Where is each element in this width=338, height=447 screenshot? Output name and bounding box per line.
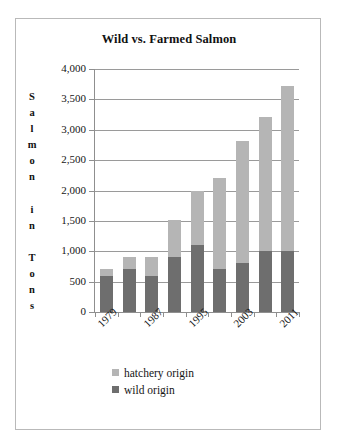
bar-segment-hatchery-origin[interactable] — [191, 191, 204, 246]
y-axis-title-letter: S — [24, 89, 40, 105]
bar-stack[interactable] — [281, 69, 294, 312]
y-axis-title-letter: a — [24, 105, 40, 121]
y-axis-title-letter: T — [24, 250, 40, 266]
y-axis-tick-label: 2,000 — [40, 184, 86, 196]
y-axis-tick-label: 3,000 — [40, 123, 86, 135]
y-axis-title-letter: m — [24, 137, 40, 153]
bar-segment-hatchery-origin[interactable] — [123, 257, 136, 269]
bar-segment-hatchery-origin[interactable] — [236, 141, 249, 263]
y-axis-title-letter: i — [24, 202, 40, 218]
bar-segment-hatchery-origin[interactable] — [259, 117, 272, 251]
legend-swatch-icon — [112, 369, 119, 376]
y-axis-tick-label: 500 — [40, 275, 86, 287]
y-axis-tick-label: 1,000 — [40, 244, 86, 256]
y-axis-tick-label: 4,000 — [40, 62, 86, 74]
y-axis-tick-label: 0 — [40, 305, 86, 317]
bar-segment-wild-origin[interactable] — [281, 251, 294, 312]
y-axis-title-letter: n — [24, 169, 40, 185]
y-axis-title-spacer — [24, 234, 40, 250]
bar-stack[interactable] — [168, 69, 181, 312]
legend-swatch-icon — [112, 386, 119, 393]
y-axis-title-letter: o — [24, 266, 40, 282]
plot-area — [95, 69, 299, 312]
bar-segment-hatchery-origin[interactable] — [145, 257, 158, 276]
bar-stack[interactable] — [259, 69, 272, 312]
bar-stack[interactable] — [236, 69, 249, 312]
bar-segment-hatchery-origin[interactable] — [168, 220, 181, 257]
category-axis-tick — [95, 312, 96, 317]
y-axis-title-letter: n — [24, 282, 40, 298]
bar-stack[interactable] — [100, 69, 113, 312]
y-axis-title-letter: n — [24, 218, 40, 234]
y-axis-title-letter: o — [24, 153, 40, 169]
y-axis-title-letter: l — [24, 121, 40, 137]
chart-legend: hatchery originwild origin — [112, 364, 272, 398]
y-axis-title: SalmoninTons — [24, 89, 40, 314]
bar-segment-wild-origin[interactable] — [123, 269, 136, 312]
bar-segment-wild-origin[interactable] — [259, 251, 272, 312]
y-axis-title-letter: s — [24, 298, 40, 314]
y-axis-tick-label: 3,500 — [40, 92, 86, 104]
bar-segment-hatchery-origin[interactable] — [213, 178, 226, 270]
bar-segment-hatchery-origin[interactable] — [281, 86, 294, 251]
bar-segment-wild-origin[interactable] — [168, 257, 181, 312]
bar-segment-wild-origin[interactable] — [236, 263, 249, 312]
y-axis-title-spacer — [24, 186, 40, 202]
bar-stack[interactable] — [191, 69, 204, 312]
y-axis-tick-label: 2,500 — [40, 153, 86, 165]
chart-title: Wild vs. Farmed Salmon — [16, 32, 322, 47]
category-axis-tick — [276, 312, 277, 317]
legend-item-label: wild origin — [124, 384, 175, 396]
legend-item[interactable]: hatchery origin — [112, 364, 272, 381]
bar-segment-wild-origin[interactable] — [213, 269, 226, 312]
y-axis-tick-label: 1,500 — [40, 214, 86, 226]
bar-stack[interactable] — [145, 69, 158, 312]
bar-segment-wild-origin[interactable] — [191, 245, 204, 312]
legend-item[interactable]: wild origin — [112, 381, 272, 398]
bar-stack[interactable] — [123, 69, 136, 312]
legend-item-label: hatchery origin — [124, 367, 194, 379]
bar-stack[interactable] — [213, 69, 226, 312]
category-axis-tick — [140, 312, 141, 317]
category-axis-tick — [231, 312, 232, 317]
chart-figure-frame: Wild vs. Farmed Salmon SalmoninTons 0500… — [15, 18, 321, 430]
category-axis-tick — [186, 312, 187, 317]
